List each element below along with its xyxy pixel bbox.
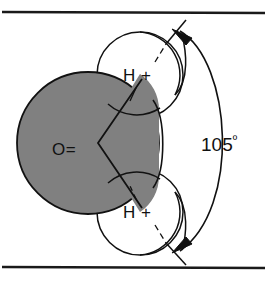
hydrogen-bottom-label: H + — [123, 203, 151, 222]
angle-value: 105 — [201, 134, 233, 155]
figure-root: O= H + H + 105º — [0, 0, 268, 281]
water-molecule-diagram: O= H + H + 105º — [0, 0, 268, 281]
hydrogen-top-label: H + — [123, 66, 151, 85]
top-rule — [2, 12, 265, 13]
angle-label: 105º — [201, 133, 238, 155]
oxygen-label: O= — [52, 140, 76, 159]
bottom-rule — [2, 267, 265, 268]
degree-symbol: º — [233, 133, 238, 147]
